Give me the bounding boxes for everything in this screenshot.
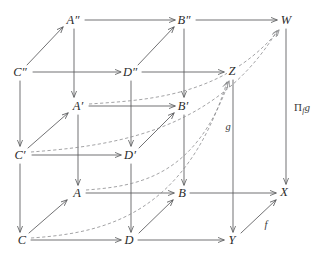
edge-D-to-B	[139, 200, 173, 233]
edge-Dp-to-Bp	[139, 113, 174, 148]
commutative-diagram: A″ B″ W C″ D″ Z A′ B′ C′ D′ A B X C D Y …	[0, 0, 325, 261]
pi-trailing-g: g	[305, 102, 310, 113]
node-B: B	[177, 187, 188, 200]
node-A-double-prime: A″	[65, 14, 81, 27]
node-A-prime: A′	[71, 100, 84, 113]
node-D: D	[123, 234, 135, 247]
node-W: W	[279, 14, 292, 27]
edge-Dpp-to-Bpp	[138, 27, 174, 65]
diagram-canvas	[0, 0, 325, 261]
node-B-double-prime: B″	[176, 14, 192, 27]
node-D-double-prime: D″	[121, 66, 138, 79]
node-B-prime: B′	[176, 100, 189, 113]
node-C: C	[16, 234, 27, 247]
dashed-curved-edges	[31, 30, 279, 238]
pi-symbol: Π	[294, 101, 302, 113]
map-label-f: f	[265, 220, 268, 231]
node-D-prime: D′	[123, 149, 138, 162]
map-label-g: g	[225, 122, 230, 133]
edge-Cpp-to-App	[27, 27, 63, 65]
node-A: A	[72, 187, 83, 200]
edge-C-to-A	[29, 200, 67, 233]
node-Y: Y	[227, 234, 237, 247]
map-label-pi-f-g: Πfg	[294, 102, 310, 115]
edge-Y-to-X	[241, 200, 276, 233]
node-C-prime: C′	[13, 149, 27, 162]
node-C-double-prime: C″	[12, 66, 29, 79]
node-Z: Z	[227, 65, 237, 78]
edge-Cp-to-W-dashed	[31, 31, 277, 152]
node-X: X	[279, 186, 290, 199]
diagonal-edges	[27, 27, 276, 233]
edge-Cp-to-Ap	[28, 113, 68, 148]
